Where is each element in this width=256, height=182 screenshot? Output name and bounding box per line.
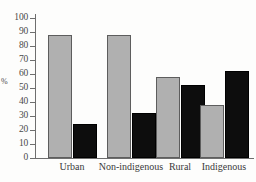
bar — [73, 124, 97, 158]
bar-chart: % 0102030405060708090100 UrbanNon-indige… — [0, 0, 256, 182]
bar — [132, 113, 156, 158]
y-tick-label-80: 80 — [4, 41, 28, 51]
bar-group — [48, 14, 97, 158]
y-tick-0 — [30, 158, 35, 159]
bar-group — [156, 14, 205, 158]
y-tick-100 — [30, 18, 35, 19]
bar-group — [107, 14, 156, 158]
y-tick-label-70: 70 — [4, 55, 28, 65]
y-tick-20 — [30, 130, 35, 131]
x-axis-label: Indigenous — [164, 161, 256, 172]
bar-group — [200, 14, 249, 158]
y-tick-30 — [30, 116, 35, 117]
y-tick-50 — [30, 88, 35, 89]
bar — [48, 35, 72, 158]
y-tick-label-30: 30 — [4, 111, 28, 121]
plot-area — [36, 14, 252, 158]
bar — [107, 35, 131, 158]
y-tick-70 — [30, 60, 35, 61]
y-tick-80 — [30, 46, 35, 47]
bar — [156, 77, 180, 158]
y-tick-label-20: 20 — [4, 125, 28, 135]
y-tick-label-100: 100 — [4, 13, 28, 23]
y-tick-label-40: 40 — [4, 97, 28, 107]
y-tick-label-10: 10 — [4, 139, 28, 149]
y-tick-60 — [30, 74, 35, 75]
y-tick-40 — [30, 102, 35, 103]
bar — [225, 71, 249, 158]
y-tick-label-60: 60 — [4, 69, 28, 79]
y-tick-10 — [30, 144, 35, 145]
bar — [200, 105, 224, 158]
y-tick-90 — [30, 32, 35, 33]
y-tick-label-90: 90 — [4, 27, 28, 37]
x-axis-line — [35, 158, 254, 159]
y-tick-label-50: 50 — [4, 83, 28, 93]
